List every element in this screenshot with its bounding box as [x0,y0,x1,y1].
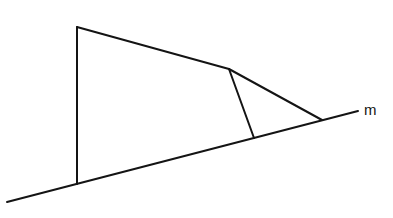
segment-top-edge [77,27,229,69]
segment-perpendicular-right [229,69,254,138]
line-m [7,111,358,202]
geometry-diagram: m [0,0,393,218]
segment-to-line-right [229,69,322,120]
line-m-label: m [364,101,377,118]
